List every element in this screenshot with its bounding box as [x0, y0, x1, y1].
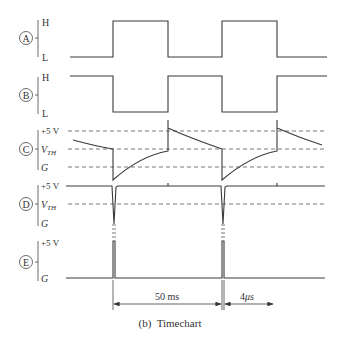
pulse-width-label: 4μs: [240, 291, 254, 302]
signal-e-marker: E: [20, 256, 33, 269]
signal-b-marker: B: [20, 89, 33, 102]
signal-d-label: D: [22, 199, 29, 210]
signal-e: E +5 V G: [20, 238, 326, 284]
signal-a-waveform: [70, 21, 327, 57]
signal-c: C +5 V VTH G: [20, 120, 328, 180]
signal-b-waveform: [70, 76, 327, 112]
signal-c-5v-label: +5 V: [41, 126, 60, 136]
signal-a-marker: A: [20, 32, 33, 45]
signal-d: D +5 V VTH G: [20, 181, 328, 240]
signal-d-marker: D: [20, 198, 33, 211]
signal-b-low-label: L: [42, 108, 48, 119]
signal-b-label: B: [23, 90, 30, 101]
signal-c-waveform: [73, 120, 322, 180]
signal-e-label: E: [23, 257, 29, 268]
signal-a: A H L: [20, 17, 328, 63]
dimension-annotations: 50 ms 4μs: [113, 280, 273, 310]
signal-e-waveform: [66, 241, 325, 278]
signal-e-5v-label: +5 V: [41, 238, 60, 248]
signal-c-vth-label: VTH: [41, 144, 57, 157]
diagram-caption: (b) Timechart: [139, 317, 202, 330]
period-label: 50 ms: [155, 291, 179, 302]
signal-a-label: A: [22, 33, 30, 44]
signal-d-5v-label: +5 V: [41, 181, 60, 191]
signal-d-waveform: [66, 183, 325, 224]
signal-a-low-label: L: [42, 52, 48, 63]
signal-a-high-label: H: [42, 17, 49, 28]
signal-b-high-label: H: [42, 72, 49, 83]
signal-c-g-label: G: [41, 162, 48, 173]
signal-a-bracket: [35, 20, 38, 57]
signal-e-g-label: G: [41, 273, 48, 284]
timechart-diagram: A H L B H L C +5 V VTH G D: [0, 0, 339, 347]
signal-d-vth-label: VTH: [41, 199, 57, 212]
signal-d-g-label: G: [41, 218, 48, 229]
signal-c-marker: C: [20, 143, 33, 156]
signal-b: B H L: [20, 72, 328, 119]
signal-c-label: C: [23, 144, 30, 155]
